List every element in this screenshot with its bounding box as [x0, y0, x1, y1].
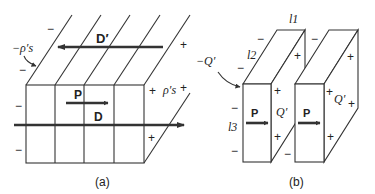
minus-sign: −	[231, 101, 238, 115]
p-label-2: P	[303, 107, 310, 119]
pos-charge-label-2: Q′	[334, 92, 346, 106]
caption-a: (a)	[95, 175, 110, 189]
d-label: D	[94, 110, 103, 124]
pos-surface-charge-label: ρ′s	[162, 83, 176, 97]
p-label: P	[74, 88, 82, 102]
plus-sign: +	[294, 49, 301, 63]
dim-l1-label: l1	[289, 12, 298, 26]
figure-canvas: D′ P D −ρ′s ρ′s − − − − + + + + (a)	[0, 0, 375, 194]
minus-sign: −	[19, 63, 26, 77]
panel-b: l1 l2 l3 −Q′ Q′ Q′ P P − − − − − − + + +…	[196, 12, 358, 189]
minus-sign: −	[15, 143, 22, 157]
caption-b: (b)	[289, 175, 304, 189]
plus-sign: +	[274, 84, 281, 98]
neg-surface-charge-label: −ρ′s	[12, 41, 33, 55]
minus-sign: −	[47, 22, 54, 36]
neg-charge-label: −Q′	[196, 54, 216, 68]
minus-sign: −	[257, 32, 264, 46]
plus-sign: +	[180, 38, 187, 52]
dim-l3-label: l3	[228, 120, 237, 134]
plus-sign: +	[180, 81, 187, 95]
dim-l2-label: l2	[247, 48, 256, 62]
d-prime-label: D′	[96, 31, 109, 46]
minus-sign: −	[237, 61, 244, 75]
plus-sign: +	[326, 85, 333, 99]
plus-sign: +	[148, 131, 155, 145]
p-label-1: P	[251, 107, 258, 119]
minus-sign: −	[15, 99, 22, 113]
plus-sign: +	[274, 130, 281, 144]
minus-sign: −	[311, 32, 318, 46]
minus-sign: −	[284, 147, 291, 161]
plus-sign: +	[348, 97, 355, 111]
pos-charge-label-1: Q′	[276, 105, 288, 119]
plus-sign: +	[327, 130, 334, 144]
plus-sign: +	[347, 50, 354, 64]
panel-a: D′ P D −ρ′s ρ′s − − − − + + + + (a)	[12, 15, 190, 189]
minus-sign: −	[231, 144, 238, 158]
plus-sign: +	[149, 84, 156, 98]
